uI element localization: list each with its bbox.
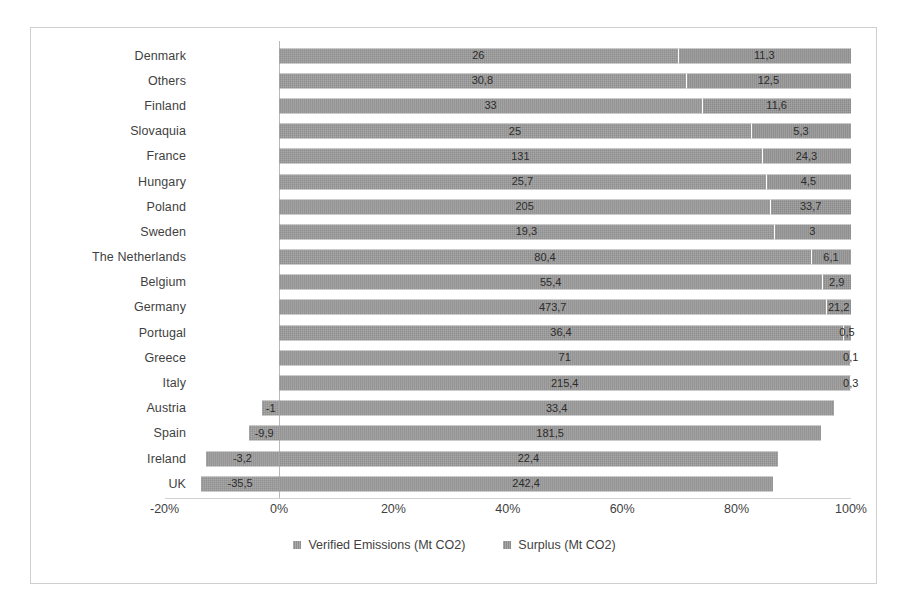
bar-group: 36,40,5 [31,325,878,340]
legend-label: Verified Emissions (Mt CO2) [308,538,465,552]
bar-row: Belgium55,42,9 [31,270,878,295]
x-tick-label: 100% [835,502,867,516]
bar-segment-emissions-label: 30,8 [279,75,686,86]
bar-segment-emissions-label: 71 [279,352,850,363]
bar-segment-surplus-label: 3 [774,226,851,237]
bar-group: 473,721,2 [31,300,878,315]
chart-frame: Denmark2611,3Others30,812,5Finland3311,6… [30,27,877,584]
bar-segment-negative-label: -35,5 [201,478,279,489]
chart-legend: Verified Emissions (Mt CO2)Surplus (Mt C… [31,538,878,552]
bar-segment-emissions-label: 33,4 [279,403,834,414]
bar-segment-negative-label: -9,9 [249,428,279,439]
bar-segment-surplus-label: 24,3 [762,151,851,162]
bar-segment-emissions-label: 131 [279,151,762,162]
bar-rows: Denmark2611,3Others30,812,5Finland3311,6… [31,43,878,498]
bar-segment-emissions-label: 26 [279,50,678,61]
bar-segment-emissions-label: 22,4 [279,453,778,464]
bar-group: 19,33 [31,224,878,239]
bar-group: 30,812,5 [31,73,878,88]
bar-row: Hungary25,74,5 [31,169,878,194]
bar-row: The Netherlands80,46,1 [31,245,878,270]
bar-row: Greece710,1 [31,345,878,370]
bar-group: 25,74,5 [31,174,878,189]
bar-group: 2611,3 [31,48,878,63]
bar-segment-negative-label: -3,2 [206,453,279,464]
bar-segment-negative-label: -1 [262,403,279,414]
bar-segment-surplus-label: 12,5 [686,75,851,86]
bar-row: Ireland-3,222,4 [31,446,878,471]
bar-group: 255,3 [31,124,878,139]
bar-group: -35,5242,4 [31,476,878,491]
bar-segment-surplus-label: 11,3 [678,50,851,61]
bar-group: 13124,3 [31,149,878,164]
bar-segment-emissions-label: 215,4 [279,378,850,389]
legend-item[interactable]: Verified Emissions (Mt CO2) [293,538,465,552]
bar-segment-emissions-label: 25,7 [279,176,766,187]
bar-row: UK-35,5242,4 [31,471,878,496]
bar-group: -3,222,4 [31,451,878,466]
bar-segment-surplus-label: 4,5 [766,176,851,187]
bar-group: -9,9181,5 [31,426,878,441]
bar-row: Portugal36,40,5 [31,320,878,345]
bar-segment-surplus-label: 21,2 [819,302,859,313]
x-axis-ticks: -20%0%20%40%60%80%100% [31,502,878,524]
bar-group: 710,1 [31,350,878,365]
category-axis-line [165,498,851,499]
bar-group: 80,46,1 [31,250,878,265]
bar-segment-surplus-label: 0,5 [827,327,867,338]
bar-row: Germany473,721,2 [31,295,878,320]
bar-row: France13124,3 [31,144,878,169]
bar-row: Slovaquia255,3 [31,119,878,144]
plot-area: Denmark2611,3Others30,812,5Finland3311,6… [31,28,878,585]
bar-segment-surplus-label: 5,3 [751,126,851,137]
bar-segment-emissions-label: 80,4 [279,252,811,263]
bar-segment-surplus-label: 2,9 [822,277,851,288]
bar-row: Denmark2611,3 [31,43,878,68]
bar-segment-emissions-label: 33 [279,100,702,111]
bar-group: 20533,7 [31,199,878,214]
bar-group: 215,40,3 [31,376,878,391]
bar-group: 3311,6 [31,98,878,113]
bar-segment-surplus-label: 0,3 [831,378,871,389]
x-tick-label: 60% [610,502,635,516]
legend-swatch-icon [503,541,511,549]
x-tick-label: 40% [495,502,520,516]
bar-row: Finland3311,6 [31,93,878,118]
bar-segment-emissions-label: 25 [279,126,751,137]
legend-label: Surplus (Mt CO2) [518,538,615,552]
bar-segment-emissions-label: 181,5 [279,428,821,439]
bar-segment-emissions-label: 19,3 [279,226,774,237]
legend-swatch-icon [293,541,301,549]
bar-row: Italy215,40,3 [31,370,878,395]
bar-segment-surplus-label: 33,7 [770,201,851,212]
bar-segment-emissions-label: 242,4 [279,478,773,489]
x-tick-label: -20% [150,502,179,516]
bar-group: 55,42,9 [31,275,878,290]
bar-segment-surplus-label: 6,1 [811,252,851,263]
bar-segment-emissions-label: 55,4 [279,277,822,288]
x-tick-label: 20% [381,502,406,516]
bar-row: Poland20533,7 [31,194,878,219]
bar-segment-emissions-label: 473,7 [279,302,826,313]
legend-item[interactable]: Surplus (Mt CO2) [503,538,615,552]
bar-group: -133,4 [31,401,878,416]
x-tick-label: 0% [270,502,288,516]
bar-row: Spain-9,9181,5 [31,421,878,446]
bar-segment-emissions-label: 205 [279,201,770,212]
bar-row: Others30,812,5 [31,68,878,93]
x-tick-label: 80% [724,502,749,516]
bar-segment-emissions-label: 36,4 [279,327,843,338]
bar-segment-surplus-label: 0,1 [831,352,871,363]
bar-segment-surplus-label: 11,6 [702,100,851,111]
bar-row: Austria-133,4 [31,396,878,421]
bar-row: Sweden19,33 [31,219,878,244]
